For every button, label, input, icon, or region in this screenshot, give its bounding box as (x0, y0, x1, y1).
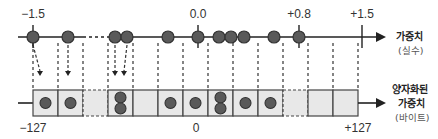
quantized-dot (115, 103, 126, 114)
weight-dot (109, 31, 121, 43)
weight-dot (225, 31, 237, 43)
quantized-dot (265, 98, 276, 109)
quantized-dot (40, 98, 51, 109)
quantized-dot (215, 103, 226, 114)
quantized-dot (115, 92, 126, 103)
weight-dot (192, 31, 204, 43)
quantized-cell (333, 90, 358, 116)
arrow-down-icon (37, 71, 43, 76)
weight-dot (27, 31, 39, 43)
quantized-axis-label-line2: 가중치 (398, 97, 425, 109)
weight-dot (213, 31, 225, 43)
column-guide-lines (33, 43, 358, 90)
quantized-dot (240, 98, 251, 109)
quantized-cells (18, 90, 358, 116)
tick-label: +1.5 (350, 7, 374, 21)
quantization-diagram: −1.50.0+0.8+1.5 −1270+127 가중치 (실수) 양자화된 … (0, 0, 438, 139)
arrow-down-icon (112, 71, 118, 76)
arrow-down-icon (65, 71, 71, 76)
arrow-down-icon (121, 71, 127, 76)
quantized-dot (165, 98, 176, 109)
tick-label: −1.5 (21, 7, 45, 21)
tick-label: 0.0 (190, 7, 207, 21)
mapping-arrow-line (33, 45, 40, 71)
weight-dot (293, 31, 305, 43)
mapping-arrows (33, 45, 127, 76)
quantized-dot (215, 92, 226, 103)
unused-cell (83, 90, 108, 116)
mapping-arrow-line (124, 45, 127, 71)
weight-dot (238, 31, 250, 43)
tick-label: −127 (19, 121, 46, 135)
weight-dot (62, 31, 74, 43)
tick-label: +127 (344, 121, 371, 135)
float-axis-sublabel: (실수) (398, 45, 423, 56)
quantized-axis-label-line1: 양자화된 (392, 83, 428, 95)
quantized-axis-sublabel: (바이트) (395, 112, 429, 123)
tick-label: 0 (193, 121, 200, 135)
unused-cell (283, 90, 308, 116)
quantized-dot (190, 98, 201, 109)
float-axis-label: 가중치 (396, 30, 423, 42)
weight-dot (268, 31, 280, 43)
quantized-cell (133, 90, 158, 116)
quantized-cell (308, 90, 333, 116)
arrow-head-icon (376, 98, 386, 108)
weight-dot (162, 31, 174, 43)
arrow-head-icon (376, 32, 386, 42)
tick-label: +0.8 (287, 7, 311, 21)
weight-dot (121, 31, 133, 43)
quantized-dot (65, 98, 76, 109)
